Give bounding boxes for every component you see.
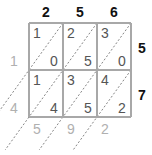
cell-ones-digit: 0 [118,53,126,69]
cell-tens-digit: 2 [67,25,75,41]
cell-tens-digit: 1 [33,25,41,41]
cell-tens-digit: 1 [33,72,41,88]
result-digit-bottom: 2 [101,121,109,137]
multiplicand-digit: 2 [42,4,50,20]
result-digit-bottom: 9 [67,121,75,137]
result-digit-bottom: 5 [33,121,41,137]
cell-ones-digit: 5 [84,53,92,69]
cell-ones-digit: 2 [118,100,126,116]
cell-tens-digit: 3 [67,72,75,88]
diagonal-line [0,23,63,150]
multiplicand-digit: 5 [76,4,84,20]
multiplier-digit: 5 [138,40,146,56]
cell-ones-digit: 4 [50,100,58,116]
lattice-grid [29,23,131,117]
lattice-diagram: 2 5 6 5 7 1 0 2 5 3 0 1 4 3 5 4 2 1 4 5 … [0,0,152,155]
multiplier-digit: 7 [138,87,146,103]
result-digit-left: 1 [10,53,18,69]
diagonal-line [5,23,97,150]
cell-tens-digit: 3 [101,25,109,41]
diagonal-line [39,23,131,150]
cell-tens-digit: 4 [101,72,109,88]
multiplicand-digit: 6 [110,4,118,20]
cell-ones-digit: 5 [84,100,92,116]
diagonal-lines [0,23,131,150]
result-digit-left: 4 [10,100,18,116]
cell-ones-digit: 0 [50,53,58,69]
